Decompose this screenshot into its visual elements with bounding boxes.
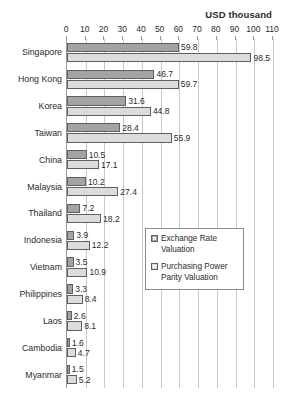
category-label: Thailand — [28, 208, 62, 218]
bar-ppp[interactable] — [67, 295, 83, 304]
bar-chart: USD thousand 0102030405060708090100110 S… — [0, 0, 284, 406]
bar-value-label: 8.4 — [85, 294, 97, 304]
category-label: Cambodia — [22, 343, 62, 353]
bar-row: Cambodia1.64.7 — [67, 334, 272, 361]
bar-exchange-rate[interactable] — [67, 43, 179, 52]
x-tick-label: 80 — [211, 24, 220, 34]
axis-unit-title: USD thousand — [205, 9, 272, 20]
bar-row: Thailand7.218.2 — [67, 200, 272, 227]
category-label: Laos — [43, 316, 62, 326]
bar-value-label: 1.6 — [72, 338, 84, 348]
bar-row: Myanmar1.55.2 — [67, 361, 272, 388]
bar-value-label: 10.9 — [89, 267, 106, 277]
bar-ppp[interactable] — [67, 241, 90, 250]
x-tick-label: 70 — [192, 24, 201, 34]
category-label: Myanmar — [25, 370, 62, 380]
legend: Exchange Rate Valuation Purchasing Power… — [145, 228, 244, 290]
x-tick-label: 50 — [155, 24, 164, 34]
bar-value-label: 28.4 — [122, 123, 139, 133]
category-label: Vietnam — [30, 262, 62, 272]
bar-value-label: 31.6 — [128, 96, 145, 106]
bar-row: Hong Kong46.759.7 — [67, 66, 272, 93]
bar-value-label: 17.1 — [101, 160, 118, 170]
bar-row: Laos2.68.1 — [67, 307, 272, 334]
bar-exchange-rate[interactable] — [67, 177, 86, 186]
bar-ppp[interactable] — [67, 187, 118, 196]
bar-ppp[interactable] — [67, 375, 77, 384]
x-tick-label: 20 — [99, 24, 108, 34]
bar-exchange-rate[interactable] — [67, 150, 87, 159]
bar-value-label: 55.9 — [174, 133, 191, 143]
bar-ppp[interactable] — [67, 214, 101, 223]
category-label: Taiwan — [35, 128, 62, 138]
bar-ppp[interactable] — [67, 268, 87, 277]
category-label: Korea — [39, 101, 62, 111]
legend-swatch-icon — [151, 263, 158, 270]
bar-row: Malaysia10.227.4 — [67, 173, 272, 200]
bar-exchange-rate[interactable] — [67, 96, 126, 105]
x-tick-label: 110 — [265, 24, 279, 34]
bar-ppp[interactable] — [67, 348, 76, 357]
bar-value-label: 3.9 — [76, 230, 88, 240]
bar-value-label: 27.4 — [120, 187, 137, 197]
bar-exchange-rate[interactable] — [67, 204, 80, 213]
bar-ppp[interactable] — [67, 53, 251, 62]
bar-value-label: 12.2 — [92, 240, 109, 250]
bar-value-label: 10.2 — [88, 177, 105, 187]
bar-exchange-rate[interactable] — [67, 231, 74, 240]
legend-label: Purchasing Power Parity Valuation — [161, 262, 238, 283]
x-tick-label: 90 — [230, 24, 239, 34]
x-tick-label: 100 — [246, 24, 260, 34]
bar-value-label: 3.3 — [75, 284, 87, 294]
bar-value-label: 5.2 — [79, 375, 91, 385]
bar-ppp[interactable] — [67, 160, 99, 169]
bar-exchange-rate[interactable] — [67, 365, 70, 374]
bar-value-label: 1.5 — [72, 364, 84, 374]
bar-exchange-rate[interactable] — [67, 257, 74, 266]
bar-exchange-rate[interactable] — [67, 311, 72, 320]
bar-value-label: 59.7 — [181, 79, 198, 89]
bar-value-label: 18.2 — [103, 214, 120, 224]
plot-area: Singapore59.898.5Hong Kong46.759.7Korea3… — [66, 39, 272, 388]
bar-ppp[interactable] — [67, 321, 82, 330]
x-tick-label: 10 — [80, 24, 89, 34]
category-label: Singapore — [22, 47, 62, 57]
bar-exchange-rate[interactable] — [67, 284, 73, 293]
bar-exchange-rate[interactable] — [67, 70, 154, 79]
bar-row: Korea31.644.8 — [67, 93, 272, 120]
bar-value-label: 10.5 — [89, 150, 106, 160]
legend-swatch-icon — [151, 235, 158, 242]
bar-exchange-rate[interactable] — [67, 123, 120, 132]
x-tick-label: 0 — [64, 24, 69, 34]
bar-row: China10.517.1 — [67, 146, 272, 173]
bar-ppp[interactable] — [67, 80, 179, 89]
x-tick-label: 40 — [136, 24, 145, 34]
category-label: China — [39, 155, 62, 165]
category-label: Hong Kong — [18, 74, 62, 84]
x-tick-label: 60 — [174, 24, 183, 34]
bar-value-label: 98.5 — [253, 53, 270, 63]
legend-label: Exchange Rate Valuation — [161, 234, 238, 255]
bar-value-label: 3.5 — [76, 257, 88, 267]
bar-value-label: 44.8 — [153, 106, 170, 116]
bar-exchange-rate[interactable] — [67, 338, 70, 347]
category-label: Malaysia — [27, 182, 62, 192]
category-label: Indonesia — [24, 235, 62, 245]
x-axis-tick-labels: 0102030405060708090100110 — [66, 24, 272, 36]
bar-value-label: 4.7 — [78, 348, 90, 358]
bar-value-label: 46.7 — [156, 69, 173, 79]
bar-value-label: 59.8 — [181, 42, 198, 52]
gridline — [273, 39, 274, 388]
bar-row: Taiwan28.455.9 — [67, 120, 272, 147]
bar-value-label: 2.6 — [74, 311, 86, 321]
bar-value-label: 7.2 — [82, 203, 94, 213]
legend-item[interactable]: Purchasing Power Parity Valuation — [151, 262, 238, 283]
category-label: Philippines — [19, 289, 62, 299]
legend-item[interactable]: Exchange Rate Valuation — [151, 234, 238, 255]
bar-value-label: 8.1 — [84, 321, 96, 331]
bar-ppp[interactable] — [67, 133, 172, 142]
bar-rows: Singapore59.898.5Hong Kong46.759.7Korea3… — [67, 39, 272, 388]
bar-ppp[interactable] — [67, 107, 151, 116]
x-tick-label: 30 — [117, 24, 126, 34]
bar-row: Singapore59.898.5 — [67, 39, 272, 66]
